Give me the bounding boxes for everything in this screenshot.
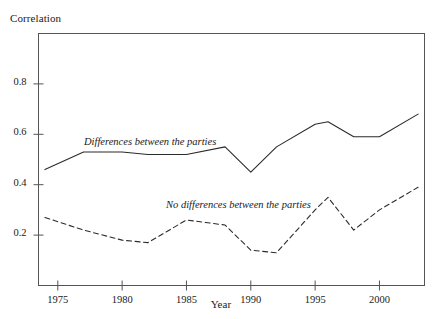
y-tick-label: 0.6 <box>0 126 27 137</box>
y-tick-label: 0.2 <box>0 227 27 238</box>
y-axis-title: Correlation <box>10 12 61 24</box>
x-axis-title: Year <box>0 298 442 310</box>
series-label-differences: Differences between the parties <box>84 136 216 147</box>
y-tick-label: 0.4 <box>0 177 27 188</box>
plot-area <box>0 0 442 319</box>
y-tick-label: 0.8 <box>0 76 27 87</box>
plot-frame <box>39 34 425 286</box>
series-label-no-differences: No differences between the parties <box>166 199 311 210</box>
correlation-line-chart: Correlation 0.20.40.60.81975198019851990… <box>0 0 442 319</box>
